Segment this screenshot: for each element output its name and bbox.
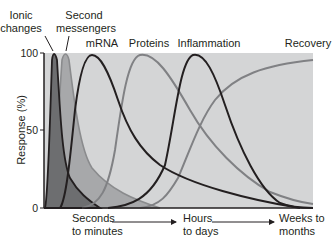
pointer-ionic [45, 36, 53, 51]
label-mrna: mRNA [86, 37, 119, 49]
timeline-seconds-line1: Seconds [72, 212, 115, 224]
timeline-weeks-line1: Weeks to [279, 212, 325, 224]
label-ionic-line2: changes [0, 22, 42, 34]
y-tick-label-0: 0 [32, 202, 38, 214]
y-tick-label-100: 100 [20, 47, 38, 59]
timeline-seconds-line2: to minutes [72, 225, 123, 237]
timeline-hours-line1: Hours [183, 212, 213, 224]
label-recovery: Recovery [285, 37, 332, 49]
label-inflammation: Inflammation [178, 37, 241, 49]
timeline-weeks-line2: months [279, 225, 316, 237]
timeline-hours-line2: to days [183, 225, 219, 237]
label-second-messengers-line2: messengers [56, 22, 116, 34]
label-ionic-line1: Ionic [9, 9, 33, 21]
pointer-second-messengers [66, 36, 69, 51]
label-second-messengers-line1: Second [65, 9, 102, 21]
y-axis-label: Response (%) [15, 95, 27, 165]
response-timeline-chart: 100 50 0 Response (%) Ionic changes Seco… [0, 0, 334, 250]
label-proteins: Proteins [129, 37, 170, 49]
y-tick-label-50: 50 [26, 124, 38, 136]
